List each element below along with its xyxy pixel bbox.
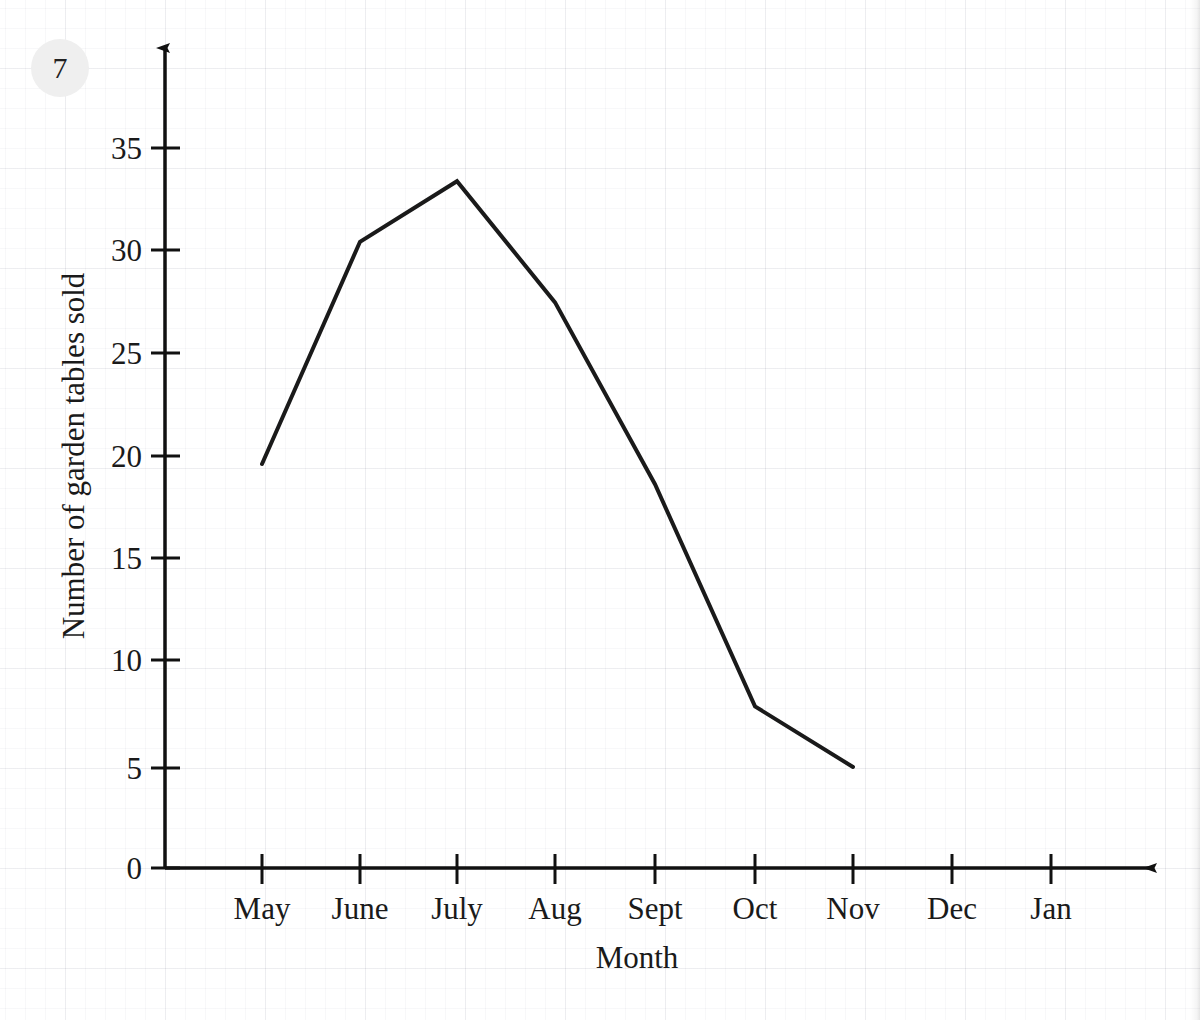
x-axis-tick-labels: May June July Aug Sept Oct Nov Dec Jan	[234, 891, 1073, 926]
x-tick-label-june: June	[332, 891, 389, 926]
y-tick-label-5: 5	[127, 751, 143, 786]
x-tick-label-may: May	[234, 891, 291, 926]
line-chart: 0 5 10 15 20 25 30 35 May June July Aug	[0, 0, 1200, 1020]
y-tick-label-35: 35	[111, 131, 142, 166]
x-tick-label-sept: Sept	[627, 891, 683, 926]
y-axis-title: Number of garden tables sold	[56, 272, 91, 639]
x-tick-label-nov: Nov	[826, 891, 880, 926]
x-tick-label-dec: Dec	[927, 891, 977, 926]
y-tick-label-15: 15	[111, 541, 142, 576]
x-tick-label-oct: Oct	[733, 891, 778, 926]
x-axis-title: Month	[596, 940, 679, 975]
x-tick-label-aug: Aug	[528, 891, 581, 926]
y-tick-label-20: 20	[111, 439, 142, 474]
x-tick-label-jan: Jan	[1030, 891, 1072, 926]
worksheet-page: 7 0 5 10	[0, 0, 1200, 1020]
y-axis-tick-labels: 0 5 10 15 20 25 30 35	[111, 131, 142, 886]
y-tick-label-30: 30	[111, 233, 142, 268]
y-tick-label-10: 10	[111, 643, 142, 678]
x-tick-label-july: July	[431, 891, 483, 926]
y-tick-label-0: 0	[127, 851, 143, 886]
data-line-series	[262, 181, 853, 767]
y-tick-label-25: 25	[111, 336, 142, 371]
